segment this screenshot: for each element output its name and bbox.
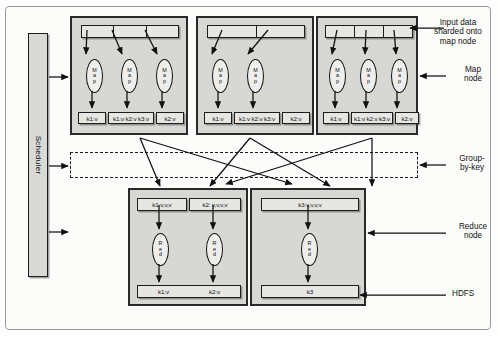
scheduler-label: Scheduler xyxy=(34,136,43,175)
hdfs-output-box: k1:v k2:v xyxy=(137,285,241,298)
input-shard xyxy=(326,26,355,37)
mapper-oval: M a p xyxy=(360,59,377,93)
map-node-1-panel: M a p M a p M a p k1:v k1:v k2:v k3:v k2… xyxy=(70,16,188,135)
reduce-input-box: k3:v,v,v,v xyxy=(261,198,359,211)
annotation-reduce-node: Reduce node xyxy=(450,222,496,241)
input-shard xyxy=(355,26,384,37)
map-output-box: k2:v xyxy=(282,112,310,124)
map-output-box: k1:v xyxy=(78,112,106,124)
input-shard xyxy=(257,26,305,37)
map-output-box: k2:v xyxy=(395,112,419,124)
map-node-3-input-bar xyxy=(325,25,413,38)
reduce-input-box: k2: v,v,v,v xyxy=(189,198,241,211)
map-output-box: k2:v xyxy=(156,112,184,124)
reducer-oval: R e d xyxy=(206,233,223,266)
map-node-1-input-bar xyxy=(81,25,179,38)
reduce-input-box: k1:v,v,v xyxy=(137,198,187,211)
annotation-map-node: Map node xyxy=(452,65,494,84)
reducer-oval: R e d xyxy=(152,233,169,266)
map-node-3-panel: M a p M a p M a p k1:v k1:v k2:v k3:v k2… xyxy=(316,16,418,135)
input-shard xyxy=(82,26,114,37)
annotation-group-by-key: Group- by-key xyxy=(448,154,496,173)
figure-canvas: Scheduler M a p M a p M a p k1:v k1:v k2… xyxy=(0,0,498,337)
annotation-input-data: Input data sharded onto map node xyxy=(424,18,492,46)
hdfs-output-label: k2:v xyxy=(209,288,220,295)
map-output-box: k1:v xyxy=(323,112,349,124)
mapper-oval: M a p xyxy=(247,59,264,93)
input-shard xyxy=(147,26,178,37)
hdfs-output-box: k3 xyxy=(261,285,359,298)
map-output-box: k1:v k2:v k3:v xyxy=(351,112,393,124)
map-node-2-panel: M a p M a p k1:v k1:v k2:v k3:v k2:v xyxy=(196,16,314,135)
mapper-oval: M a p xyxy=(121,59,138,93)
mapper-oval: M a p xyxy=(391,59,408,93)
map-output-box: k1:v k2:v k3:v xyxy=(108,112,154,124)
scheduler-bar: Scheduler xyxy=(28,33,48,277)
reduce-node-2-panel: k3:v,v,v,v R e d k3 xyxy=(250,188,366,306)
input-shard xyxy=(208,26,257,37)
reduce-node-1-panel: k1:v,v,v k2: v,v,v,v R e d R e d k1:v k2… xyxy=(128,188,248,306)
reducer-oval: R e d xyxy=(301,233,318,266)
map-output-box: k1:v xyxy=(204,112,232,124)
mapper-oval: M a p xyxy=(156,59,173,93)
map-node-2-input-bar xyxy=(207,25,305,38)
map-output-box: k1:v k2:v k3:v xyxy=(234,112,280,124)
mapper-oval: M a p xyxy=(86,59,103,93)
annotation-hdfs: HDFS xyxy=(452,289,494,298)
mapper-oval: M a p xyxy=(212,59,229,93)
hdfs-output-label: k1:v xyxy=(158,288,169,295)
input-shard xyxy=(114,26,146,37)
input-shard xyxy=(384,26,412,37)
group-by-key-band xyxy=(70,152,418,178)
mapper-oval: M a p xyxy=(329,59,346,93)
